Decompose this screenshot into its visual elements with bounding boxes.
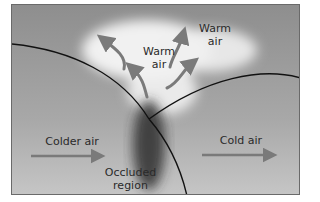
label-cold-air: Cold air xyxy=(211,134,271,147)
label-warm-air-right: Warm air xyxy=(195,22,235,48)
label-colder-air: Colder air xyxy=(36,135,108,148)
label-warm-air-center: Warm air xyxy=(134,45,184,71)
label-occluded-region: Occluded region xyxy=(103,166,158,192)
